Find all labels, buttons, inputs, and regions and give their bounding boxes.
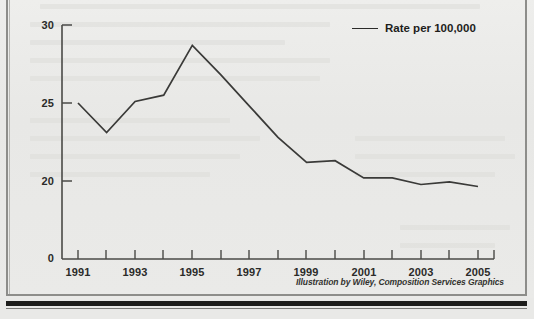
y-tick-label-25: 25	[28, 97, 54, 109]
y-tick-label-20: 20	[28, 175, 54, 187]
page-frame-right-rule	[525, 0, 527, 296]
y-tick-label-30: 30	[28, 19, 54, 31]
page-bottom-heavy-rule-shadow	[6, 308, 527, 309]
y-tick-label-0: 0	[28, 252, 54, 264]
data-series-line	[78, 45, 478, 186]
page-bottom-heavy-rule	[6, 301, 527, 306]
x-tick-label-1995: 1995	[172, 266, 212, 278]
figure-page: 30 25 20 0 1991 1993 1995 1997 1999 2001…	[0, 0, 534, 319]
chart-canvas	[0, 0, 534, 298]
page-frame-left-rule-inner	[9, 0, 10, 296]
x-tick-marks	[78, 250, 478, 259]
legend-line-swatch	[352, 28, 378, 29]
chart-legend: Rate per 100,000	[352, 22, 476, 34]
line-chart: 30 25 20 0 1991 1993 1995 1997 1999 2001…	[0, 0, 534, 298]
x-tick-label-1991: 1991	[58, 266, 98, 278]
x-tick-label-1993: 1993	[115, 266, 155, 278]
x-tick-label-1997: 1997	[229, 266, 269, 278]
y-tick-marks	[62, 25, 72, 181]
page-frame-left-rule	[6, 0, 8, 296]
page-frame-bottom-rule	[6, 294, 527, 296]
legend-label: Rate per 100,000	[385, 22, 476, 34]
illustration-credit: Illustration by Wiley, Composition Servi…	[296, 277, 504, 287]
